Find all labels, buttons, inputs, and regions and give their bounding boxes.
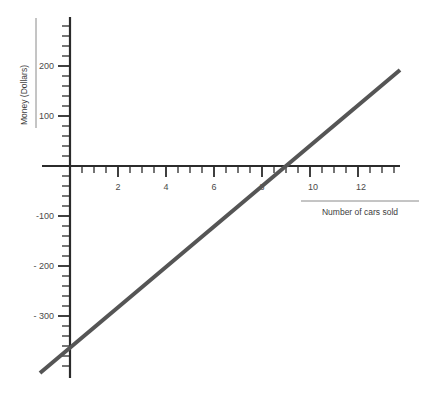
y-tick-label-200: 200 xyxy=(39,61,54,71)
data-series-line xyxy=(40,70,400,373)
y-axis-title: Money (Dollars) xyxy=(19,65,29,125)
x-tick-label-12: 12 xyxy=(356,182,366,192)
y-axis-major-ticks xyxy=(58,66,70,316)
line-chart: 200 100 -100 - 200 - 300 2 4 6 8 10 12 M… xyxy=(0,0,425,393)
x-axis-title: Number of cars sold xyxy=(322,207,398,217)
chart-container: 200 100 -100 - 200 - 300 2 4 6 8 10 12 M… xyxy=(0,0,425,393)
y-axis-minor-ticks xyxy=(62,26,70,366)
y-tick-label-neg200: - 200 xyxy=(33,261,54,271)
x-tick-label-2: 2 xyxy=(115,182,120,192)
y-tick-label-neg300: - 300 xyxy=(33,311,54,321)
y-tick-label-neg100: -100 xyxy=(36,211,54,221)
x-tick-label-10: 10 xyxy=(308,182,318,192)
x-tick-label-6: 6 xyxy=(211,182,216,192)
x-tick-label-4: 4 xyxy=(163,182,168,192)
y-tick-label-100: 100 xyxy=(39,111,54,121)
